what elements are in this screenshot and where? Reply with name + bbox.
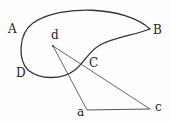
label-C: C <box>89 57 98 69</box>
point-d <box>52 45 54 47</box>
line-a-c <box>87 109 150 110</box>
label-B: B <box>153 24 162 36</box>
diagram-svg <box>0 0 171 121</box>
label-a: a <box>77 106 84 118</box>
line-d-a <box>53 46 87 110</box>
diagram-canvas: A B C D d a c <box>0 0 171 121</box>
label-c: c <box>155 101 162 113</box>
label-A: A <box>8 23 17 35</box>
label-D: D <box>16 67 26 79</box>
label-d: d <box>51 29 59 41</box>
line-d-c <box>53 46 150 109</box>
